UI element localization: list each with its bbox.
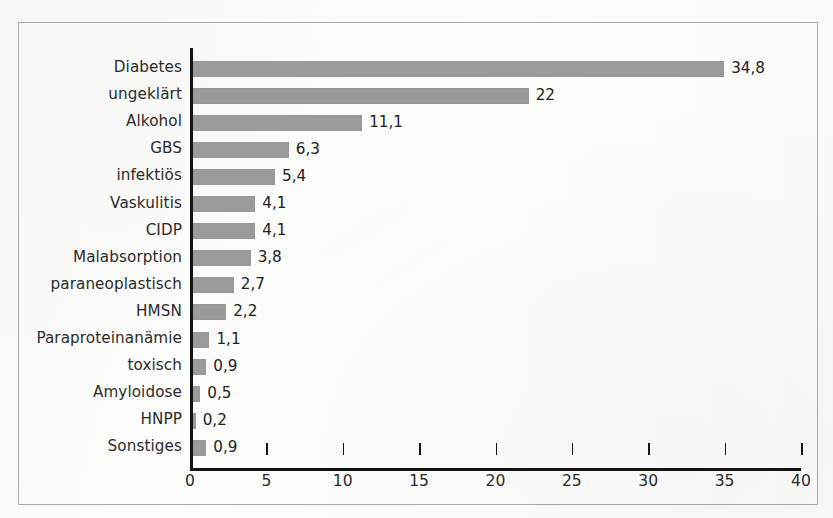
category-label: ungeklärt xyxy=(12,87,182,102)
bar xyxy=(193,359,207,375)
category-label: HNPP xyxy=(12,412,182,427)
x-axis-ticks: 0510152025303540 xyxy=(190,455,818,503)
x-tick-mark xyxy=(496,443,498,455)
x-tick-mark xyxy=(343,443,345,455)
x-tick-label: 30 xyxy=(638,472,658,490)
bar xyxy=(193,115,363,131)
x-tick-mark xyxy=(801,443,803,455)
category-label: CIDP xyxy=(12,223,182,238)
bar-value-label: 2,2 xyxy=(233,302,257,321)
bar xyxy=(193,169,275,185)
bar-value-label: 0,5 xyxy=(207,384,231,403)
x-tick-mark xyxy=(266,443,268,455)
bar-value-label: 2,7 xyxy=(241,275,265,294)
category-label: Paraproteinanämie xyxy=(12,331,182,346)
category-label: Vaskulitis xyxy=(12,196,182,211)
x-tick-label: 25 xyxy=(562,472,582,490)
bar-value-label: 1,1 xyxy=(216,330,240,349)
category-label: infektiös xyxy=(12,168,182,183)
x-tick-mark xyxy=(572,443,574,455)
bar xyxy=(193,88,529,104)
bar xyxy=(193,142,289,158)
bar xyxy=(193,61,725,77)
bar xyxy=(193,277,234,293)
category-label: Sonstiges xyxy=(12,439,182,454)
category-label: HMSN xyxy=(12,304,182,319)
bar-value-label: 0,9 xyxy=(213,357,237,376)
bar-value-label: 0,2 xyxy=(203,411,227,430)
category-label: Diabetes xyxy=(12,60,182,75)
x-tick-label: 40 xyxy=(791,472,811,490)
bar-value-label: 4,1 xyxy=(262,221,286,240)
category-label: toxisch xyxy=(12,358,182,373)
category-label: Alkohol xyxy=(12,114,182,129)
bar xyxy=(193,386,201,402)
x-tick-mark xyxy=(725,443,727,455)
bar-value-label: 22 xyxy=(536,86,555,105)
x-tick-label: 0 xyxy=(185,472,195,490)
bar-value-label: 5,4 xyxy=(282,167,306,186)
chart-figure: DiabetesungeklärtAlkoholGBSinfektiösVask… xyxy=(0,0,833,518)
bar xyxy=(193,196,256,212)
bar xyxy=(193,332,210,348)
x-tick-mark xyxy=(648,443,650,455)
bar xyxy=(193,440,207,456)
x-tick-label: 10 xyxy=(333,472,353,490)
bar-value-label: 6,3 xyxy=(296,140,320,159)
category-label: Amyloidose xyxy=(12,385,182,400)
bar-value-label: 3,8 xyxy=(258,248,282,267)
bar xyxy=(193,413,196,429)
x-tick-label: 5 xyxy=(261,472,271,490)
bar-value-label: 11,1 xyxy=(369,113,403,132)
bar xyxy=(193,223,256,239)
x-tick-label: 20 xyxy=(486,472,506,490)
category-axis-labels: DiabetesungeklärtAlkoholGBSinfektiösVask… xyxy=(20,48,188,454)
category-label: GBS xyxy=(12,141,182,156)
bar-value-label: 4,1 xyxy=(262,194,286,213)
category-label: Malabsorption xyxy=(12,250,182,265)
plot-area: 34,82211,16,35,44,14,13,82,72,21,10,90,5… xyxy=(190,48,818,468)
bar xyxy=(193,304,227,320)
bar-value-label: 34,8 xyxy=(731,59,765,78)
x-tick-label: 35 xyxy=(715,472,735,490)
bar xyxy=(193,250,251,266)
x-tick-label: 15 xyxy=(409,472,429,490)
category-label: paraneoplastisch xyxy=(12,277,182,292)
x-tick-mark xyxy=(419,443,421,455)
